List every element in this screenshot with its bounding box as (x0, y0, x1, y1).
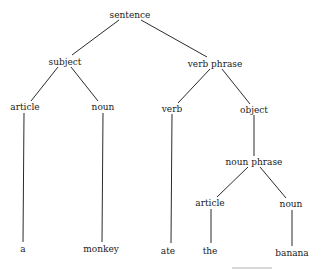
leaf-banana: banana (275, 248, 308, 258)
node-verb-phrase: verb phrase (188, 59, 243, 69)
scan-artifact (232, 267, 272, 269)
leaf-the: the (203, 246, 218, 256)
edge-sentence-verb-phrase (141, 20, 207, 57)
edge-subject-article (31, 67, 58, 101)
edge-noun-monkey (102, 113, 103, 242)
edge-verb-phrase-object (222, 69, 250, 104)
edge-noun-phrase-noun (260, 167, 286, 198)
edge-verb-ate (171, 114, 172, 243)
node-object: object (240, 105, 268, 115)
edge-subject-noun (71, 67, 98, 101)
node-noun: noun (92, 102, 115, 112)
leaf-monkey: monkey (83, 244, 119, 254)
node-noun-phrase: noun phrase (226, 157, 283, 167)
node-article-np: article (195, 198, 224, 208)
node-noun-np: noun (280, 199, 303, 209)
tree-edges (0, 0, 315, 272)
edge-verb-phrase-verb (178, 69, 210, 103)
leaf-ate: ate (161, 246, 175, 256)
node-verb: verb (162, 104, 182, 114)
node-subject: subject (49, 57, 82, 67)
leaf-a: a (20, 244, 25, 254)
edge-article-a (23, 113, 24, 242)
edge-noun-phrase-article (217, 167, 248, 197)
edge-sentence-subject (72, 20, 119, 55)
node-sentence: sentence (110, 10, 151, 20)
node-article: article (10, 102, 39, 112)
